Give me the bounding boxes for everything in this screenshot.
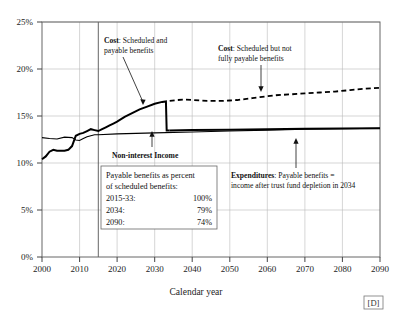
- svg-text:Cost: Scheduled but not: Cost: Scheduled but not: [218, 44, 293, 53]
- x-tick-label-2040: 2040: [183, 264, 202, 274]
- x-axis-title: Calendar year: [169, 287, 223, 297]
- ann4-line2: income after trust fund depletion in 203…: [231, 181, 356, 190]
- svg-text:Cost: Scheduled and: Cost: Scheduled and: [104, 36, 167, 45]
- y-tick-label-20: 20%: [17, 64, 34, 74]
- x-tick-label-2010: 2010: [71, 264, 90, 274]
- legend-row-1-percent: 79%: [197, 206, 212, 215]
- chart-figure: 25% 20% 15% 10% 5% 0% 2000 2010 2020 203…: [0, 0, 406, 320]
- y-tick-label-10: 10%: [17, 158, 34, 168]
- ann2-bold-prefix: Cost: [218, 44, 233, 53]
- ann4-bold-prefix: Expenditures: [231, 171, 274, 180]
- x-tick-label-2080: 2080: [333, 264, 352, 274]
- legend-row-2-percent: 74%: [197, 218, 212, 227]
- y-tick-label-15: 15%: [17, 111, 34, 121]
- ann3-bold-prefix: Non-interest Income: [112, 151, 179, 160]
- ann1-line2: payable benefits: [104, 46, 154, 55]
- x-tick-label-2050: 2050: [221, 264, 240, 274]
- ann2-line2: fully payable benefits: [218, 54, 284, 63]
- x-tick-label-2090: 2090: [371, 264, 390, 274]
- legend-box: Payable benefits as percent of scheduled…: [101, 166, 217, 229]
- x-tick-label-2020: 2020: [108, 264, 127, 274]
- ann1-bold-prefix: Cost: [104, 36, 119, 45]
- svg-text:Expenditures: Payable benefits: Expenditures: Payable benefits =: [231, 171, 335, 180]
- data-table-link[interactable]: [D]: [364, 296, 383, 309]
- y-axis-ticks: [37, 22, 42, 257]
- legend-row-0-period: 2015-33:: [106, 194, 136, 203]
- x-tick-label-2000: 2000: [33, 264, 52, 274]
- legend-heading-line1: Payable benefits as percent: [106, 171, 196, 180]
- ann2-line1: : Scheduled but not: [233, 44, 293, 53]
- data-table-link-label[interactable]: [D]: [368, 298, 380, 308]
- chart-svg: 25% 20% 15% 10% 5% 0% 2000 2010 2020 203…: [0, 0, 406, 320]
- y-tick-label-5: 5%: [21, 205, 34, 215]
- legend-heading-line2: of scheduled benefits:: [106, 182, 178, 191]
- y-tick-label-0: 0%: [21, 252, 34, 262]
- x-tick-label-2030: 2030: [146, 264, 165, 274]
- y-tick-label-25: 25%: [17, 17, 34, 27]
- ann1-line1: : Scheduled and: [119, 36, 168, 45]
- ann4-line1: : Payable benefits =: [274, 171, 334, 180]
- x-tick-label-2060: 2060: [258, 264, 277, 274]
- x-tick-label-2070: 2070: [296, 264, 315, 274]
- x-axis-ticks: [42, 257, 380, 262]
- legend-row-0-percent: 100%: [193, 194, 212, 203]
- legend-row-1-period: 2034:: [106, 206, 125, 215]
- legend-row-2-period: 2090:: [106, 218, 125, 227]
